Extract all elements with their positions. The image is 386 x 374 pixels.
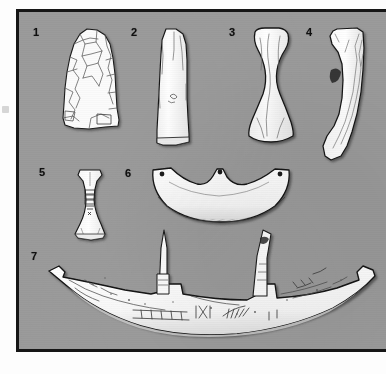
artifact-label-4: 4 (306, 27, 312, 38)
artifact-label-3: 3 (229, 27, 235, 38)
artifact-label-2: 2 (131, 27, 137, 38)
artifact-7-large-engraved-curved-implement (41, 224, 386, 352)
artifact-label-5: 5 (39, 167, 45, 178)
artifact-6-perforated-crescentic-blade (149, 164, 294, 224)
perforation-right (278, 172, 283, 177)
artifact-label-6: 6 (125, 168, 131, 179)
figure-plate-page: 1 2 3 4 5 6 7 (0, 0, 386, 374)
artifact-4-curved-stone-adze-profile (319, 26, 381, 166)
perforation-centre (218, 170, 223, 175)
margin-smudge-mark (2, 106, 9, 113)
artifact-2-polished-stone-adze (145, 26, 203, 160)
artifact-3-waisted-stone-axe (239, 26, 305, 146)
artifact-label-1: 1 (33, 27, 39, 38)
artifact-label-7: 7 (31, 251, 37, 262)
artifact-1-flaked-flint-axe (49, 26, 129, 144)
perforation-left (160, 172, 165, 177)
artifact-plate: 1 2 3 4 5 6 7 (16, 9, 386, 352)
